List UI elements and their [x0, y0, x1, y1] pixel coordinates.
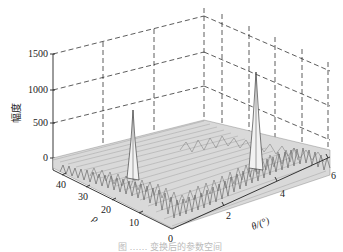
surface-plot: 1500 1000 500 0 幅度 [0, 0, 343, 252]
theta-tick-6: 6 [331, 170, 336, 181]
z-axis [50, 54, 55, 170]
rho-tick-30: 30 [78, 191, 88, 202]
z-tick-0: 0 [43, 152, 48, 163]
rho-axis-label: ρ [90, 212, 101, 225]
rho-tick-10: 10 [129, 217, 139, 228]
surface-mesh [53, 72, 330, 228]
z-tick-500: 500 [33, 117, 48, 128]
z-tick-1500: 1500 [28, 48, 48, 59]
z-tick-1000: 1000 [28, 84, 48, 95]
z-axis-label: 幅度 [10, 103, 22, 123]
figure-caption: 图 …… 变换后的参数空间 [118, 241, 223, 252]
theta-tick-2: 2 [226, 210, 231, 221]
theta-tick-4: 4 [280, 188, 285, 199]
rho-tick-40: 40 [56, 179, 66, 190]
rho-tick-20: 20 [101, 204, 111, 215]
theta-axis-label: θ/(°) [250, 215, 272, 233]
